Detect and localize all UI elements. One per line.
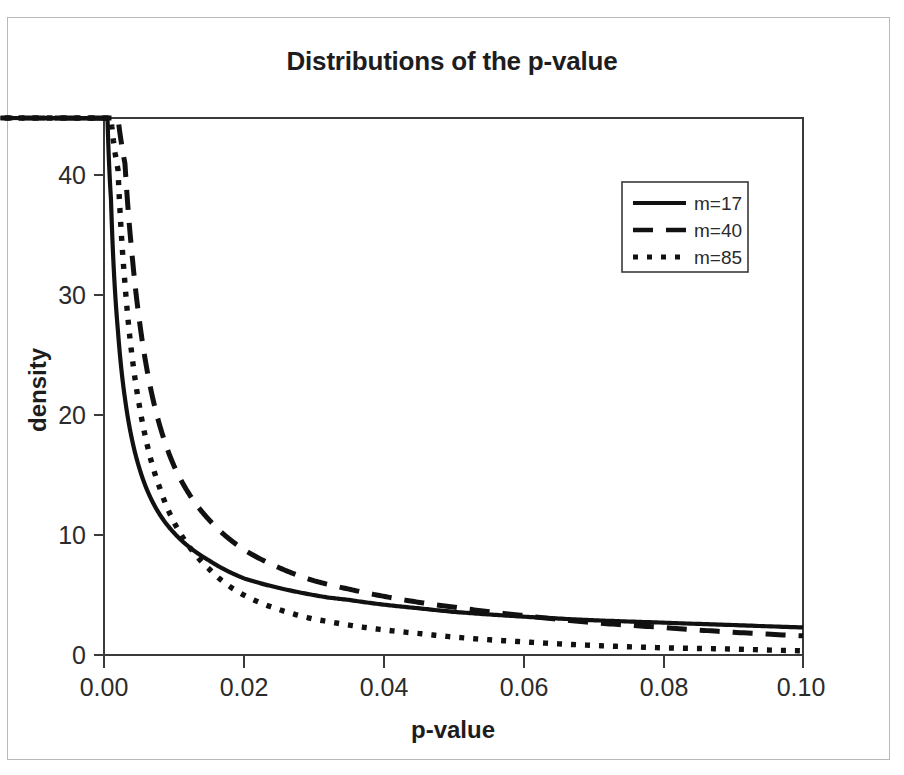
y-tick-label-20: 20 (58, 401, 86, 429)
x-axis-ticks (104, 655, 803, 668)
x-axis-tick-labels: 0.00 0.02 0.04 0.06 0.08 0.10 (80, 673, 826, 701)
x-tick-label-008: 0.08 (640, 673, 689, 701)
chart-plot-area: 0 10 20 30 40 0.00 0.02 0.04 0.06 0.08 0… (0, 0, 904, 775)
legend-label-m85: m=85 (694, 247, 742, 268)
legend-label-m40: m=40 (694, 220, 742, 241)
legend-label-m17: m=17 (694, 193, 742, 214)
y-axis-tick-labels: 0 10 20 30 40 (58, 161, 86, 669)
x-tick-label-000: 0.00 (80, 673, 129, 701)
y-axis-title: density (24, 347, 51, 432)
x-tick-label-010: 0.10 (777, 673, 826, 701)
figure-root: Distributions of the p-value 0 10 20 30 … (0, 0, 904, 775)
y-tick-label-30: 30 (58, 281, 86, 309)
x-axis-title: p-value (411, 716, 495, 743)
y-tick-label-0: 0 (72, 641, 86, 669)
y-tick-label-10: 10 (58, 521, 86, 549)
x-tick-label-002: 0.02 (220, 673, 269, 701)
y-tick-label-40: 40 (58, 161, 86, 189)
y-axis-ticks (94, 175, 104, 655)
legend[interactable]: m=17 m=40 m=85 (622, 182, 748, 272)
x-tick-label-004: 0.04 (360, 673, 409, 701)
x-tick-label-006: 0.06 (500, 673, 549, 701)
